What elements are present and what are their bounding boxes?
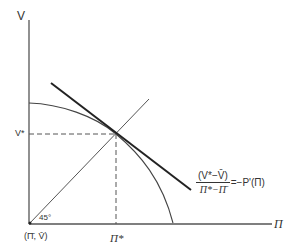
tangency-equation: (V*−V̄) Π*−Π̄ =−P'(Π) <box>196 170 265 195</box>
y-axis-label: V <box>17 10 25 22</box>
equation-rhs: =−P'(Π) <box>231 177 265 188</box>
pi-star-label: Π* <box>110 233 123 244</box>
v-star-label: V* <box>15 129 25 138</box>
angle-label: 45° <box>39 214 51 222</box>
x-axis-label: Π <box>274 218 283 230</box>
tangent-line <box>51 83 191 190</box>
equation-denominator: Π*−Π̄ <box>198 183 228 195</box>
origin-label: (Π̄, V̄) <box>24 232 48 241</box>
equation-numerator: (V*−V̄) <box>196 170 230 183</box>
origin-point <box>29 222 32 225</box>
